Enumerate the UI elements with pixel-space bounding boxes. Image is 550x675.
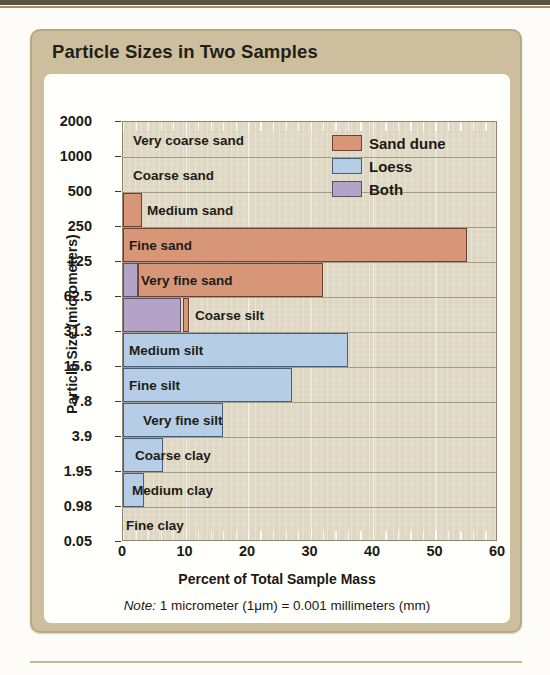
bar-category-label: Coarse silt xyxy=(195,309,264,323)
y-axis-tick-label: 31.3 xyxy=(64,324,92,339)
bar-category-label: Very fine sand xyxy=(141,274,233,288)
legend-label-both: Both xyxy=(369,181,403,198)
scan-top-strip xyxy=(0,0,550,8)
bar-category-label: Medium clay xyxy=(132,484,213,498)
chart-note-prefix: Note: xyxy=(124,598,156,613)
y-axis-tick xyxy=(115,506,121,507)
y-axis-tick-label: 3.9 xyxy=(72,429,92,444)
y-axis-tick-label: 7.8 xyxy=(72,394,92,409)
legend: Sand dune Loess Both xyxy=(332,134,446,203)
x-axis-tick-label: 20 xyxy=(239,544,255,559)
chart-card: Particle Sizes in Two Samples Particle S… xyxy=(30,29,522,633)
chart-note-text: 1 micrometer (1μm) = 0.001 millimeters (… xyxy=(156,598,430,613)
legend-item: Loess xyxy=(332,157,446,175)
y-axis-tick xyxy=(115,541,121,542)
legend-swatch-sand-dune xyxy=(332,135,362,151)
row-divider xyxy=(123,472,496,473)
bar-category-label: Coarse sand xyxy=(133,169,214,183)
y-axis-tick-label: 62.5 xyxy=(64,289,92,304)
bottom-divider xyxy=(30,661,522,663)
bar-segment xyxy=(183,298,189,332)
y-axis-tick-label: 1000 xyxy=(60,149,92,164)
x-axis-tick-label: 10 xyxy=(176,544,192,559)
x-axis-title: Percent of Total Sample Mass xyxy=(44,571,510,587)
x-axis-tick-label: 40 xyxy=(364,544,380,559)
bar-segment xyxy=(123,263,138,297)
y-axis-tick xyxy=(115,401,121,402)
y-axis-tick xyxy=(115,226,121,227)
y-axis-tick xyxy=(115,261,121,262)
x-axis-tick-label: 50 xyxy=(426,544,442,559)
y-axis-tick-label: 500 xyxy=(68,184,92,199)
bar-category-label: Fine silt xyxy=(129,379,180,393)
row-divider xyxy=(123,507,496,508)
y-axis-tick xyxy=(115,436,121,437)
x-axis-tick-label: 30 xyxy=(301,544,317,559)
gridline xyxy=(248,122,249,540)
scan-top-strip-dark xyxy=(0,0,550,5)
y-axis-tick xyxy=(115,366,121,367)
bar-category-label: Very coarse sand xyxy=(133,134,244,148)
bar-category-label: Fine clay xyxy=(126,519,184,533)
y-axis-tick-label: 2000 xyxy=(60,114,92,129)
y-axis-tick xyxy=(115,156,121,157)
y-axis-tick xyxy=(115,331,121,332)
bar-segment xyxy=(123,193,142,227)
legend-swatch-loess xyxy=(332,158,362,174)
y-axis: 2000100050025012562.531.315.67.83.91.950… xyxy=(44,74,122,594)
y-axis-tick-label: 0.98 xyxy=(64,499,92,514)
x-axis-tick-label: 0 xyxy=(118,544,126,559)
legend-item: Sand dune xyxy=(332,134,446,152)
x-axis-tick-label: 60 xyxy=(489,544,505,559)
bar-category-label: Fine sand xyxy=(129,239,192,253)
y-axis-tick-label: 1.95 xyxy=(64,464,92,479)
bar-category-label: Medium silt xyxy=(129,344,203,358)
legend-label-sand-dune: Sand dune xyxy=(369,135,446,152)
y-axis-tick xyxy=(115,191,121,192)
page-root: Particle Sizes in Two Samples Particle S… xyxy=(0,0,550,675)
y-axis-tick-label: 125 xyxy=(68,254,92,269)
row-divider xyxy=(123,437,496,438)
y-axis-tick-label: 15.6 xyxy=(64,359,92,374)
y-axis-tick xyxy=(115,296,121,297)
bar-category-label: Medium sand xyxy=(147,204,233,218)
legend-item: Both xyxy=(332,180,446,198)
y-axis-tick xyxy=(115,121,121,122)
chart-panel: Particle Size (micrometers) 200010005002… xyxy=(44,74,510,623)
x-axis: 0102030405060 xyxy=(122,544,497,566)
bar-category-label: Coarse clay xyxy=(135,449,211,463)
bar-segment xyxy=(123,298,181,332)
gridline xyxy=(311,122,312,540)
page-title: Particle Sizes in Two Samples xyxy=(52,41,318,63)
legend-swatch-both xyxy=(332,181,362,197)
chart-note: Note: 1 micrometer (1μm) = 0.001 millime… xyxy=(44,598,510,613)
legend-label-loess: Loess xyxy=(369,158,412,175)
bar-category-label: Very fine silt xyxy=(143,414,223,428)
y-axis-tick xyxy=(115,471,121,472)
tick-comb-top xyxy=(123,122,496,131)
y-axis-tick-label: 0.05 xyxy=(64,534,92,549)
y-axis-tick-label: 250 xyxy=(68,219,92,234)
plot-area: Very coarse sandCoarse sandMedium sandFi… xyxy=(122,121,497,541)
